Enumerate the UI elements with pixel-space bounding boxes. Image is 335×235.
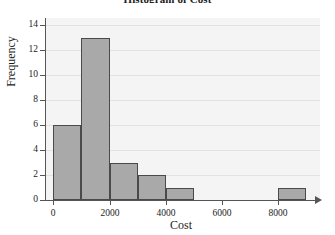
y-axis-tick-label: 2 <box>14 170 38 180</box>
histogram-bar <box>53 125 81 200</box>
y-axis-tick <box>40 125 45 126</box>
y-axis-tick <box>40 25 45 26</box>
plot-area <box>45 18 320 200</box>
x-axis-tick-label: 8000 <box>248 208 308 218</box>
gridline <box>45 25 320 26</box>
y-axis-tick-label: 10 <box>14 70 38 80</box>
y-axis-tick <box>40 50 45 51</box>
x-axis-tick-label: 4000 <box>136 208 196 218</box>
histogram-figure: Histogram of Cost 02468101214 0200040006… <box>0 0 335 235</box>
x-axis-tick <box>53 200 54 205</box>
histogram-bar <box>278 188 306 200</box>
y-axis-tick <box>40 150 45 151</box>
x-axis-tick-label: 2000 <box>80 208 140 218</box>
y-axis-tick <box>40 175 45 176</box>
x-axis-title: Cost <box>45 219 317 232</box>
y-axis-tick <box>40 200 45 201</box>
x-axis-line <box>45 200 317 201</box>
x-axis-tick-label: 0 <box>23 208 83 218</box>
y-axis-tick-label: 6 <box>14 120 38 130</box>
x-axis-tick-label: 6000 <box>192 208 252 218</box>
plot-background <box>45 18 320 200</box>
y-axis-line <box>45 18 46 201</box>
histogram-bar <box>166 188 194 200</box>
chart-title: Histogram of Cost <box>0 0 335 3</box>
y-axis-tick-label: 0 <box>14 195 38 205</box>
x-axis-tick <box>166 200 167 205</box>
histogram-bar <box>138 175 166 200</box>
x-axis-arrow-icon <box>315 196 322 204</box>
y-axis-tick-label: 4 <box>14 145 38 155</box>
y-axis-tick <box>40 100 45 101</box>
y-axis-tick-label: 12 <box>14 45 38 55</box>
x-axis-tick <box>278 200 279 205</box>
y-axis-tick-label: 8 <box>14 95 38 105</box>
y-axis-tick-label: 14 <box>14 20 38 30</box>
x-axis-tick <box>222 200 223 205</box>
histogram-bar <box>110 163 138 200</box>
x-axis-tick <box>110 200 111 205</box>
y-axis-tick <box>40 75 45 76</box>
y-axis-title: Frequency <box>5 7 18 117</box>
histogram-bar <box>81 38 109 200</box>
